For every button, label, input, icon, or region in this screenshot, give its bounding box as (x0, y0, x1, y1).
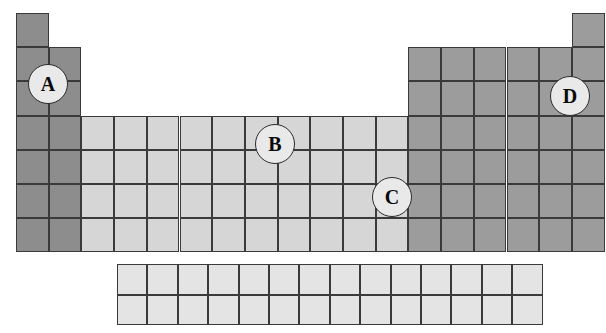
element-cell (441, 47, 474, 81)
element-cell (81, 218, 114, 252)
element-cell (245, 218, 278, 252)
element-cell (343, 184, 376, 218)
element-cell (114, 184, 147, 218)
element-cell (441, 184, 474, 218)
f-block-cell (147, 295, 177, 326)
region-marker-label: B (268, 134, 281, 154)
element-cell (310, 150, 343, 184)
element-cell (180, 116, 213, 150)
element-cell (572, 150, 605, 184)
f-block-cell (117, 264, 147, 295)
element-cell (16, 116, 49, 150)
element-cell (376, 116, 409, 150)
f-block-cell (239, 295, 269, 326)
element-cell (507, 150, 540, 184)
element-cell (16, 13, 49, 47)
element-cell (474, 81, 507, 115)
element-cell (49, 184, 82, 218)
region-marker-a: A (28, 64, 68, 104)
element-cell (343, 150, 376, 184)
element-cell (180, 184, 213, 218)
element-cell (376, 218, 409, 252)
element-cell (507, 218, 540, 252)
element-cell (507, 47, 540, 81)
element-cell (310, 184, 343, 218)
element-cell (212, 150, 245, 184)
f-block-cell (208, 295, 238, 326)
f-block-cell (391, 295, 421, 326)
element-cell (147, 150, 180, 184)
element-cell (278, 184, 311, 218)
f-block-cell (299, 295, 329, 326)
f-block-cell (178, 295, 208, 326)
f-block-cell (482, 264, 512, 295)
f-block-cell (269, 295, 299, 326)
element-cell (343, 116, 376, 150)
f-block-cell (178, 264, 208, 295)
element-cell (212, 218, 245, 252)
f-block-cell (360, 264, 390, 295)
element-cell (572, 218, 605, 252)
region-marker-d: D (550, 76, 590, 116)
element-cell (180, 150, 213, 184)
f-block-cell (330, 295, 360, 326)
element-cell (474, 184, 507, 218)
f-block-cell (208, 264, 238, 295)
element-cell (507, 81, 540, 115)
f-block-cell (330, 264, 360, 295)
element-cell (245, 184, 278, 218)
element-cell (49, 218, 82, 252)
element-cell (147, 184, 180, 218)
element-cell (539, 184, 572, 218)
element-cell (16, 184, 49, 218)
element-cell (572, 116, 605, 150)
element-cell (16, 218, 49, 252)
region-marker-label: C (385, 187, 399, 207)
element-cell (474, 116, 507, 150)
element-cell (180, 218, 213, 252)
element-cell (539, 150, 572, 184)
element-cell (408, 184, 441, 218)
f-block-cell (421, 264, 451, 295)
element-cell (474, 218, 507, 252)
f-block-cell (451, 295, 481, 326)
region-marker-label: D (563, 86, 577, 106)
element-cell (343, 218, 376, 252)
f-block-cell (269, 264, 299, 295)
element-cell (49, 116, 82, 150)
element-cell (16, 150, 49, 184)
element-cell (147, 218, 180, 252)
element-cell (441, 150, 474, 184)
element-cell (441, 218, 474, 252)
f-block-cell (512, 264, 542, 295)
element-cell (408, 81, 441, 115)
element-cell (408, 116, 441, 150)
f-block-cell (512, 295, 542, 326)
region-marker-b: B (255, 124, 295, 164)
element-cell (114, 116, 147, 150)
f-block-cell (239, 264, 269, 295)
element-cell (147, 116, 180, 150)
element-cell (212, 184, 245, 218)
element-cell (507, 116, 540, 150)
element-cell (212, 116, 245, 150)
f-block-cell (482, 295, 512, 326)
region-marker-c: C (372, 177, 412, 217)
element-cell (441, 116, 474, 150)
element-cell (507, 184, 540, 218)
f-block-cell (421, 295, 451, 326)
element-cell (408, 150, 441, 184)
element-cell (49, 150, 82, 184)
f-block-cell (299, 264, 329, 295)
element-cell (474, 47, 507, 81)
element-cell (408, 47, 441, 81)
element-cell (81, 150, 114, 184)
element-cell (310, 218, 343, 252)
element-cell (572, 184, 605, 218)
f-block-cell (391, 264, 421, 295)
element-cell (81, 184, 114, 218)
element-cell (81, 116, 114, 150)
element-cell (278, 218, 311, 252)
element-cell (539, 218, 572, 252)
element-cell (441, 81, 474, 115)
